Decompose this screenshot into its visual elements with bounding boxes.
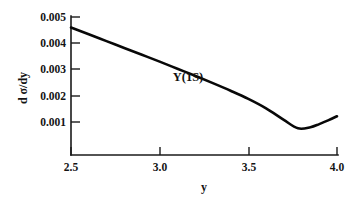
x-tick-label-4.0: 4.0 xyxy=(330,161,345,173)
y-tick-label-0.001: 0.001 xyxy=(40,116,66,128)
y-tick-label-0.004: 0.004 xyxy=(40,37,66,49)
y-tick-label-0.005: 0.005 xyxy=(40,11,66,23)
y-axis-title: d σ/dy xyxy=(16,72,30,104)
curve-annotation-y1s: Y(1S) xyxy=(173,70,204,84)
x-tick-label-3.5: 3.5 xyxy=(242,161,257,173)
chart-svg: 0.005 0.004 0.003 0.002 0.001 2.5 3.0 3.… xyxy=(0,0,354,202)
y-tick-label-0.002: 0.002 xyxy=(40,90,66,102)
x-tick-label-3.0: 3.0 xyxy=(153,161,168,173)
x-axis-title: y xyxy=(201,180,207,194)
chart-figure: 0.005 0.004 0.003 0.002 0.001 2.5 3.0 3.… xyxy=(0,0,354,202)
y-tick-label-0.003: 0.003 xyxy=(40,63,66,75)
x-tick-label-2.5: 2.5 xyxy=(64,161,79,173)
